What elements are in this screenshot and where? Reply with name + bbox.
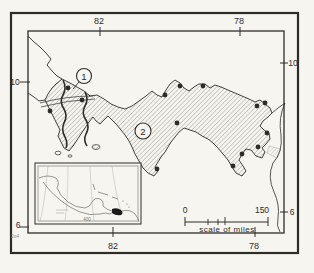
inset-map: 400 (35, 163, 141, 224)
map-figure: 82 78 82 78 10 6 10 6 1 2 (0, 0, 314, 273)
light-hatched-patch-east (267, 146, 281, 158)
inset-antilles-dot-1 (122, 200, 123, 201)
lon-label-top-78: 78 (234, 16, 244, 26)
locality-dot (80, 98, 85, 103)
colombia-pacific-coastline (270, 103, 285, 232)
corner-print-mark: 2x4 (11, 233, 19, 239)
map-svg: 82 78 82 78 10 6 10 6 1 2 (0, 0, 314, 273)
region-marker-1-label: 1 (81, 71, 86, 82)
locality-dot (66, 86, 71, 91)
inset-outer-border (35, 163, 141, 224)
costa-rica-caribbean-coastline (28, 36, 62, 79)
lat-label-right-6: 6 (290, 207, 295, 217)
locality-dot (175, 121, 180, 126)
island-coiba (92, 145, 100, 150)
lat-label-left-6: 6 (16, 220, 21, 230)
inset-antilles-dot-3 (128, 206, 129, 207)
locality-dot (201, 84, 206, 89)
inset-antilles-dot-2 (126, 203, 127, 204)
lat-label-left-10: 10 (10, 77, 20, 87)
panama-landmass-hatched-range (45, 79, 272, 176)
scale-bar: 0 150 scale of miles (183, 205, 270, 234)
lat-label-right-10: 10 (288, 58, 298, 68)
locality-dot (255, 104, 260, 109)
locality-dot (240, 152, 245, 157)
locality-dot (265, 131, 270, 136)
island-small-west (55, 151, 61, 155)
locality-dot (231, 164, 236, 169)
locality-dot (155, 167, 160, 172)
locality-dot (178, 84, 183, 89)
locality-dot (256, 145, 261, 150)
lon-label-top-82: 82 (94, 16, 104, 26)
locality-dot (263, 101, 268, 106)
lon-label-bottom-82: 82 (108, 241, 118, 251)
costa-rica-pacific-coastline (28, 93, 45, 101)
scale-bar-start-label: 0 (183, 205, 188, 215)
lon-label-bottom-78: 78 (249, 241, 259, 251)
locality-dot (48, 109, 53, 114)
inset-scale-label: 400 (83, 217, 91, 222)
island-small-west-2 (68, 155, 72, 157)
locality-dot (163, 93, 168, 98)
scale-bar-end-label: 150 (255, 205, 269, 215)
region-marker-2-label: 2 (140, 126, 145, 137)
scale-bar-caption: scale of miles (199, 225, 254, 234)
